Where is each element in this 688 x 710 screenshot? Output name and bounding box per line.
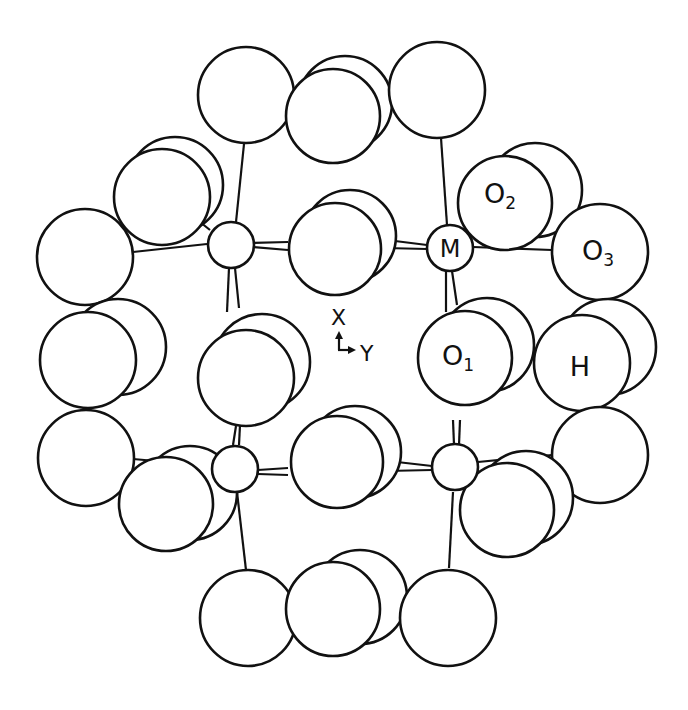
bond (233, 426, 236, 445)
bond (395, 241, 427, 245)
x-axis-arrowhead-icon (335, 331, 343, 339)
crystal-structure-diagram: O2 O3 O1 H M X (0, 0, 688, 710)
oxygen-atom (200, 570, 296, 666)
oxygen-atom (40, 312, 136, 408)
oxygen-atom (198, 47, 294, 143)
oxygen-atom (289, 203, 381, 295)
metal-atom (208, 222, 254, 268)
bond (453, 420, 454, 445)
y-axis-arrowhead-icon (348, 346, 356, 354)
bond (452, 271, 457, 305)
bond (258, 474, 288, 475)
oxygen-atom (286, 69, 380, 163)
oxygen-atom (37, 209, 133, 305)
h-label: H (570, 351, 590, 382)
oxygen-atom (389, 42, 485, 138)
bond (239, 425, 240, 445)
oxygen-atom (198, 330, 294, 426)
bond (449, 492, 453, 568)
oxygen-atom (114, 149, 210, 245)
bond (397, 462, 432, 466)
bottom-row-atoms (200, 550, 496, 666)
oxygen-atom (119, 457, 213, 551)
bond (253, 247, 288, 250)
bond (227, 268, 229, 312)
axis-indicator: X Y (331, 305, 374, 366)
metal-atom (432, 444, 478, 490)
oxygen-atom (286, 562, 380, 656)
x-axis-label: X (331, 305, 346, 330)
m-label: M (440, 235, 461, 263)
atom-o3: O3 (552, 204, 648, 300)
bond (235, 268, 239, 308)
oxygen-atom (400, 570, 496, 666)
bond (441, 138, 447, 225)
atom-h: H (534, 299, 656, 411)
bond (258, 468, 288, 470)
bond (236, 144, 244, 222)
bond (237, 492, 246, 570)
metal-atom (212, 446, 258, 492)
oxygen-atom (291, 416, 383, 508)
atom-o1: O1 (418, 298, 534, 405)
bond (459, 420, 460, 445)
y-axis-label: Y (359, 341, 374, 366)
bond (253, 242, 288, 243)
